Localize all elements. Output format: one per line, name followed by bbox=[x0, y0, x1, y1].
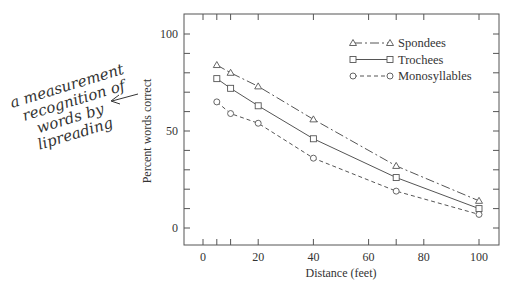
legend-label: Spondees bbox=[398, 36, 446, 50]
y-tick-label: 0 bbox=[172, 221, 178, 235]
data-point-square bbox=[255, 103, 261, 109]
y-axis-label: Percent words correct bbox=[140, 78, 154, 183]
x-tick-label: 20 bbox=[252, 250, 264, 264]
legend: SpondeesTrocheesMonosyllables bbox=[350, 36, 472, 83]
legend-entry: Trochees bbox=[350, 53, 444, 67]
data-point-square bbox=[476, 206, 482, 212]
series-group bbox=[213, 62, 482, 218]
legend-label: Trochees bbox=[398, 53, 444, 67]
legend-entry: Monosyllables bbox=[350, 69, 472, 83]
data-point-triangle bbox=[255, 83, 262, 89]
x-tick-label: 0 bbox=[200, 250, 206, 264]
legend-marker-end bbox=[387, 73, 393, 79]
legend-marker-start bbox=[350, 57, 356, 63]
data-point-circle bbox=[476, 211, 482, 217]
data-point-triangle bbox=[213, 62, 220, 68]
x-tick-label: 40 bbox=[307, 250, 319, 264]
y-tick-label: 100 bbox=[160, 27, 178, 41]
data-point-circle bbox=[393, 188, 399, 194]
series-line bbox=[217, 79, 479, 209]
data-point-square bbox=[310, 136, 316, 142]
legend-entry: Spondees bbox=[350, 36, 447, 50]
data-point-triangle bbox=[227, 69, 234, 75]
series-monosyllables bbox=[214, 99, 482, 218]
plot-frame bbox=[184, 14, 499, 245]
data-point-square bbox=[393, 175, 399, 181]
series-line bbox=[217, 102, 479, 215]
data-point-circle bbox=[255, 120, 261, 126]
x-tick-label: 100 bbox=[470, 250, 488, 264]
data-point-triangle bbox=[393, 162, 400, 168]
line-chart: 020406080100050100 SpondeesTrocheesMonos… bbox=[0, 0, 514, 292]
series-line bbox=[217, 65, 479, 201]
x-tick-label: 80 bbox=[418, 250, 430, 264]
data-point-square bbox=[214, 76, 220, 82]
data-point-circle bbox=[228, 111, 234, 117]
data-point-circle bbox=[310, 155, 316, 161]
x-axis-label: Distance (feet) bbox=[306, 266, 377, 280]
data-point-triangle bbox=[310, 116, 317, 122]
y-tick-label: 50 bbox=[166, 124, 178, 138]
legend-marker-start bbox=[350, 73, 356, 79]
data-point-square bbox=[228, 85, 234, 91]
series-trochees bbox=[214, 76, 482, 212]
plot-frame-group bbox=[184, 14, 499, 245]
ticks-group: 020406080100050100 bbox=[160, 14, 499, 264]
handwritten-annotation: a measurement recognition of words by li… bbox=[8, 60, 141, 158]
legend-marker-end bbox=[387, 57, 393, 63]
x-tick-label: 60 bbox=[363, 250, 375, 264]
legend-label: Monosyllables bbox=[398, 69, 472, 83]
data-point-circle bbox=[214, 99, 220, 105]
